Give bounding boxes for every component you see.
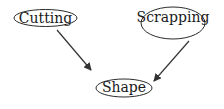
edge-scrapping-to-shape <box>154 41 189 81</box>
node-shape: Shape <box>96 79 152 97</box>
edge-cutting-to-shape <box>57 30 91 70</box>
diagram-canvas: Cutting Scrapping Shape <box>0 0 224 109</box>
node-cutting: Cutting <box>14 10 77 27</box>
node-shape-label: Shape <box>102 79 146 95</box>
node-scrapping-label: Scrapping <box>137 9 210 25</box>
node-cutting-label: Cutting <box>19 10 72 26</box>
node-scrapping: Scrapping <box>137 7 210 39</box>
